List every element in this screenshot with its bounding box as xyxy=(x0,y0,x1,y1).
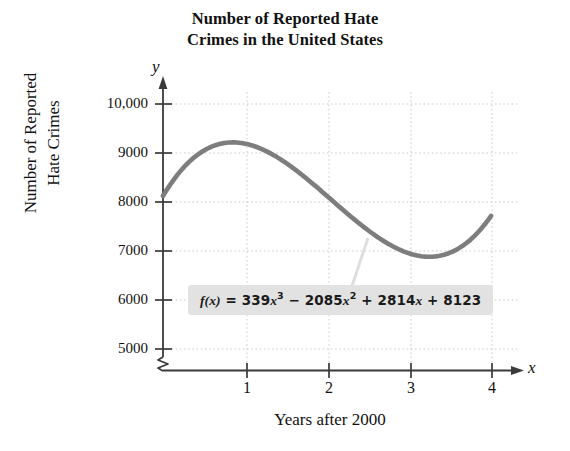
data-curve xyxy=(163,142,491,256)
y-axis-arrowhead xyxy=(159,76,168,89)
equation-power-3: 3 xyxy=(277,290,284,301)
equation-var-1: x xyxy=(415,293,422,308)
equation-coeff-2: 2085 xyxy=(305,292,343,308)
x-axis-arrowhead xyxy=(511,366,524,375)
equation-coeff-1: 2814 xyxy=(377,292,415,308)
annotation-leader-line xyxy=(352,238,368,286)
equation-operator-3: + xyxy=(427,292,438,308)
equation-constant: 8123 xyxy=(443,292,481,308)
y-axis-break-icon xyxy=(158,357,168,371)
equation-var-2: x xyxy=(343,293,350,308)
equation-operator-1: − xyxy=(289,292,300,308)
equation-coeff-3: 339 xyxy=(242,292,270,308)
equation-operator-2: + xyxy=(361,292,372,308)
equation-annotation: f(x) = 339x3 − 2085x2 + 2814x + 8123 xyxy=(188,285,493,315)
equation-arg: (x) xyxy=(205,293,221,308)
chart-figure: Number of Reported Hate Crimes in the Un… xyxy=(0,0,570,451)
equation-power-2: 2 xyxy=(350,290,357,301)
equation-equals: = xyxy=(225,292,236,308)
plot-area xyxy=(0,0,570,451)
